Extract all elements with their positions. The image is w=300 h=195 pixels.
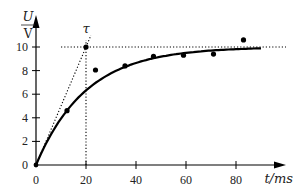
x-tick-label: 60 [180,173,192,187]
y-tick-label: 6 [22,87,28,101]
x-tick-label: 0 [33,173,39,187]
data-point [83,44,88,49]
guide-lines [36,35,286,165]
data-point [64,108,69,113]
y-axis-var: U [23,9,35,24]
x-tick-label: 20 [80,173,92,187]
data-point [211,51,216,56]
y-tick-label: 10 [16,40,28,54]
y-tick-label: 4 [22,111,28,125]
data-point [241,37,246,42]
tau-label: τ [82,21,90,36]
y-tick-label: 8 [22,64,28,78]
fit-curve [36,48,261,165]
data-point [122,63,127,68]
data-point [93,67,98,72]
x-axis-label: t/ms [264,171,293,186]
data-point [151,54,156,59]
x-axis-arrow-icon [274,162,286,169]
data-point [181,53,186,58]
y-axis-arrow-icon [33,15,40,28]
y-axis-unit: V [23,27,33,41]
chart: 020406080 0246810 U V t/ms τ [0,0,300,195]
x-tick-label: 40 [130,173,142,187]
y-tick-label: 2 [22,134,28,148]
data-points [34,37,247,167]
y-tick-label: 0 [22,158,28,172]
x-tick-label: 80 [230,173,242,187]
